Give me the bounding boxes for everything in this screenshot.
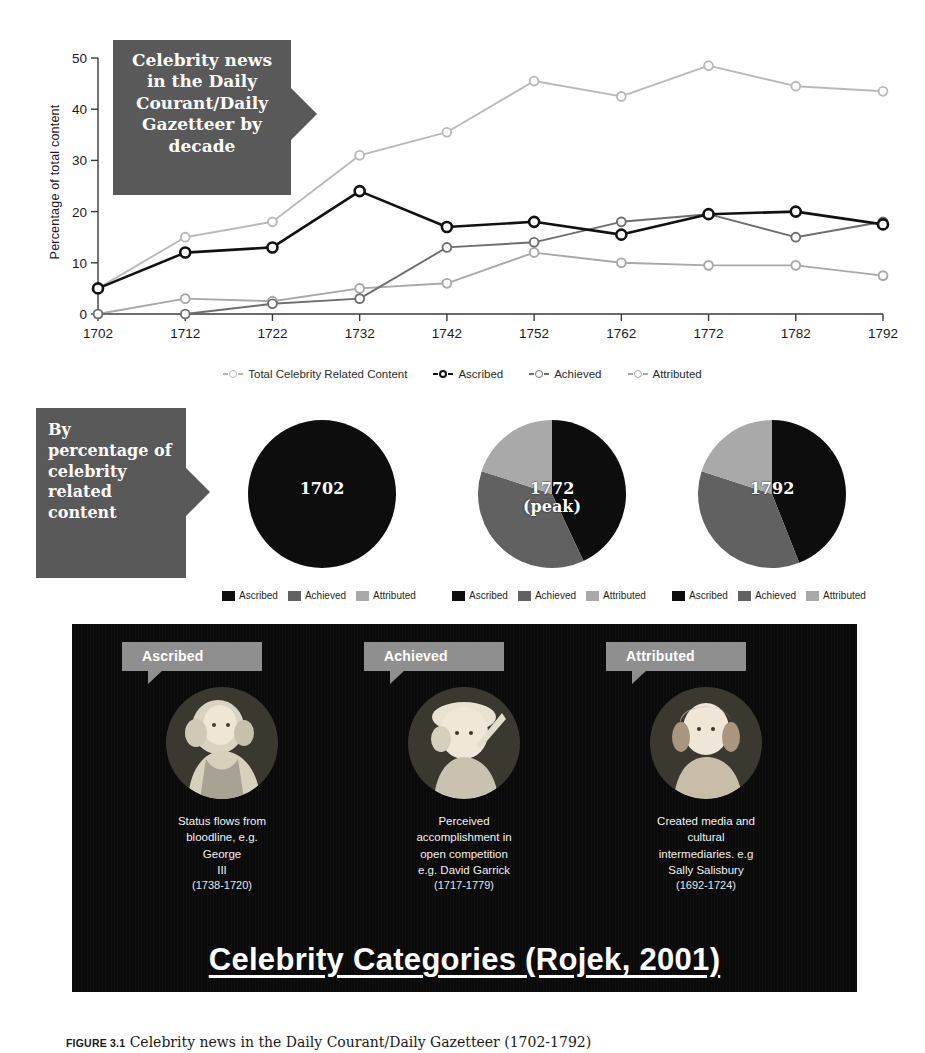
series-achieved: [94, 210, 888, 319]
pie-legend-label: Ascribed: [239, 590, 278, 601]
pie-legend-label: Ascribed: [469, 590, 508, 601]
pie-legend-item-attributed: Attributed: [806, 590, 866, 601]
y-tick-label: 40: [72, 102, 87, 117]
callout-line-chart-text: Celebrity news in the Daily Courant/Dail…: [132, 50, 272, 156]
figure-caption: FIGURE 3.1 Celebrity news in the Daily C…: [66, 1034, 866, 1050]
y-tick-label: 20: [72, 205, 87, 220]
legend-item-attributed: Attributed: [628, 368, 702, 380]
y-tick-label: 0: [79, 307, 87, 322]
category-tag-ascribed: Ascribed: [122, 642, 262, 671]
pie-legend-item-attributed: Attributed: [356, 590, 416, 601]
series-attributed: [94, 248, 888, 318]
x-tick-label: 1782: [781, 326, 811, 341]
category-dates: (1692-1724): [586, 879, 826, 891]
x-tick-label: 1722: [257, 326, 287, 341]
line-chart-legend: Total Celebrity Related ContentAscribedA…: [0, 368, 925, 380]
pie-legend-swatch-icon: [518, 591, 531, 601]
celebrity-categories-panel: AscribedStatus flows from bloodline, e.g…: [72, 624, 857, 992]
callout-pie-charts: By percentage of celebrity related conte…: [36, 408, 186, 578]
tag-pointer-icon: [632, 670, 647, 684]
tag-pointer-icon: [390, 670, 405, 684]
y-axis-title: Percentage of total content: [44, 52, 66, 312]
pie-legend: AscribedAchievedAttributed: [222, 590, 434, 601]
pie-legend-label: Ascribed: [689, 590, 728, 601]
portrait-george-iii: [166, 687, 278, 799]
pie-legend-swatch-icon: [288, 591, 301, 601]
pie-legend-swatch-icon: [672, 591, 685, 601]
pie-legend-label: Achieved: [535, 590, 576, 601]
x-tick-label: 1752: [519, 326, 549, 341]
portrait-david-garrick: [408, 687, 520, 799]
pie-legend-label: Attributed: [823, 590, 866, 601]
x-tick-label: 1772: [694, 326, 724, 341]
y-axis-title-text: Percentage of total content: [48, 105, 62, 260]
category-tag-achieved: Achieved: [364, 642, 504, 671]
pie-legend-item-ascribed: Ascribed: [452, 590, 508, 601]
pie-chart-1702: 1702AscribedAchievedAttributed: [222, 408, 422, 584]
pie-legend-item-achieved: Achieved: [518, 590, 576, 601]
pie-legend: AscribedAchievedAttributed: [672, 590, 884, 601]
pie-legend-item-ascribed: Ascribed: [222, 590, 278, 601]
portrait-sally-salisbury: [650, 687, 762, 799]
legend-label: Attributed: [653, 368, 702, 380]
pie-chart-svg: [672, 408, 872, 584]
pie-legend-swatch-icon: [452, 591, 465, 601]
legend-label: Total Celebrity Related Content: [248, 368, 407, 380]
category-column-ascribed: AscribedStatus flows from bloodline, e.g…: [102, 642, 342, 891]
pie-legend-label: Attributed: [603, 590, 646, 601]
x-tick-label: 1762: [606, 326, 636, 341]
callout-arrow-icon: [291, 88, 317, 140]
category-tag-label: Achieved: [384, 648, 448, 664]
y-tick-label: 30: [72, 153, 87, 168]
legend-item-total-celebrity-related-content: Total Celebrity Related Content: [223, 368, 407, 380]
pie-legend-swatch-icon: [356, 591, 369, 601]
x-tick-label: 1732: [345, 326, 375, 341]
category-description: Perceived accomplishment in open competi…: [344, 813, 584, 878]
pie-legend-swatch-icon: [806, 591, 819, 601]
line-chart-section: Percentage of total content 010203040501…: [0, 0, 925, 400]
pie-chart-1792: 1792AscribedAchievedAttributed: [672, 408, 872, 584]
callout-pie-charts-text: By percentage of celebrity related conte…: [48, 420, 172, 522]
legend-marker-icon: [433, 369, 453, 380]
pie-chart-svg: [452, 408, 652, 584]
pie-chart-svg: [222, 408, 422, 584]
pie-chart-1772: 1772(peak)AscribedAchievedAttributed: [452, 408, 652, 584]
x-tick-label: 1702: [83, 326, 113, 341]
pie-legend-item-attributed: Attributed: [586, 590, 646, 601]
y-tick-label: 50: [72, 52, 87, 66]
pie-legend-item-achieved: Achieved: [738, 590, 796, 601]
pie-legend-item-ascribed: Ascribed: [672, 590, 728, 601]
category-tag-attributed: Attributed: [606, 642, 746, 671]
legend-marker-icon: [628, 369, 648, 380]
callout-arrow-icon: [186, 468, 210, 516]
pie-legend-swatch-icon: [738, 591, 751, 601]
figure-caption-text: Celebrity news in the Daily Courant/Dail…: [130, 1034, 592, 1050]
pie-legend-swatch-icon: [586, 591, 599, 601]
y-tick-label: 10: [72, 256, 87, 271]
pie-legend: AscribedAchievedAttributed: [452, 590, 664, 601]
legend-label: Achieved: [554, 368, 601, 380]
pie-charts-section: By percentage of celebrity related conte…: [0, 400, 925, 625]
category-dates: (1738-1720): [102, 879, 342, 891]
x-tick-label: 1742: [432, 326, 462, 341]
figure-number: FIGURE 3.1: [66, 1037, 125, 1049]
x-tick-label: 1712: [170, 326, 200, 341]
category-description: Created media and cultural intermediarie…: [586, 813, 826, 878]
category-tag-label: Attributed: [626, 648, 695, 664]
category-column-attributed: AttributedCreated media and cultural int…: [586, 642, 826, 891]
category-tag-label: Ascribed: [142, 648, 204, 664]
tag-pointer-icon: [148, 670, 163, 684]
legend-label: Ascribed: [458, 368, 503, 380]
category-column-achieved: AchievedPerceived accomplishment in open…: [344, 642, 584, 891]
pie-legend-swatch-icon: [222, 591, 235, 601]
panel-title: Celebrity Categories (Rojek, 2001): [72, 942, 857, 978]
pie-legend-item-achieved: Achieved: [288, 590, 346, 601]
callout-line-chart: Celebrity news in the Daily Courant/Dail…: [113, 40, 291, 195]
legend-item-achieved: Achieved: [529, 368, 601, 380]
legend-marker-icon: [223, 369, 243, 380]
legend-item-ascribed: Ascribed: [433, 368, 503, 380]
legend-marker-icon: [529, 369, 549, 380]
category-dates: (1717-1779): [344, 879, 584, 891]
series-ascribed: [93, 186, 888, 293]
pie-legend-label: Achieved: [305, 590, 346, 601]
